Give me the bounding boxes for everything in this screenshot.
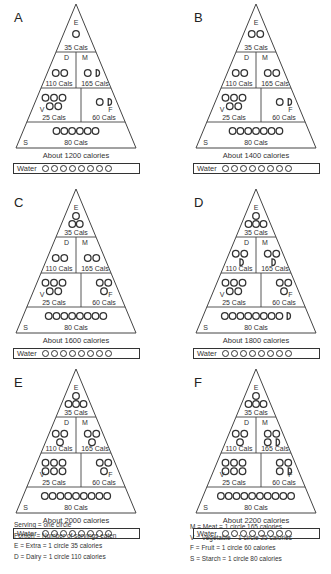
serving-circle-icon xyxy=(46,288,53,295)
serving-circle-icon xyxy=(260,221,267,228)
serving-circle-icon xyxy=(84,430,91,437)
meat-label: M xyxy=(262,419,268,426)
serving-circle-icon xyxy=(96,493,103,500)
water-row: Water xyxy=(13,348,140,359)
serving-circle-icon xyxy=(84,128,91,135)
vegetable-label: V xyxy=(220,471,225,478)
serving-circle-icon xyxy=(245,401,252,408)
serving-circle-icon xyxy=(231,459,238,466)
pyramid-panel-c: CE35 CalsDM110 Cals165 CalsVF25 Cals60 C… xyxy=(0,185,150,370)
vegetable-calories: 25 Cals xyxy=(42,479,66,486)
water-circle-icon xyxy=(285,165,292,172)
dairy-calories: 110 Cals xyxy=(45,80,73,87)
serving-circle-icon xyxy=(61,313,68,320)
extra-label: E xyxy=(254,384,259,391)
serving-circle-icon xyxy=(59,94,66,101)
extra-calories: 35 Cals xyxy=(244,409,268,416)
water-label: Water xyxy=(17,349,37,358)
dairy-label: D xyxy=(64,239,69,246)
serving-circle-icon xyxy=(231,94,238,101)
serving-circle-icon xyxy=(235,103,242,110)
water-circle-icon xyxy=(231,350,238,357)
water-circle-icon xyxy=(285,350,292,357)
pyramid-panel-d: DE35 CalsDM110 Cals165 CalsVF25 Cals60 C… xyxy=(166,185,316,370)
serving-circle-icon xyxy=(42,279,49,286)
meat-label: M xyxy=(82,419,88,426)
water-circle-icon xyxy=(42,350,49,357)
serving-circle-icon xyxy=(276,99,283,106)
serving-circle-icon xyxy=(61,255,68,262)
half-serving-icon xyxy=(288,99,291,106)
pyramid: E35 CalsDM110 Cals165 CalsVF25 Cals60 Ca… xyxy=(166,185,326,345)
fruit-calories: 60 Cals xyxy=(92,479,116,486)
water-circle-icon xyxy=(96,165,103,172)
fruit-label: F xyxy=(108,471,112,478)
meat-calories: 165 Cals xyxy=(81,265,109,272)
serving-circle-icon xyxy=(272,493,279,500)
serving-circle-icon xyxy=(96,99,103,106)
water-circle-icon xyxy=(222,350,229,357)
serving-circle-icon xyxy=(73,393,80,400)
water-circle-icon xyxy=(240,165,247,172)
serving-circle-icon xyxy=(93,430,100,437)
vegetable-calories: 25 Cals xyxy=(42,114,66,121)
water-circle-icon xyxy=(267,350,274,357)
fruit-label: F xyxy=(288,291,292,298)
serving-circle-icon xyxy=(101,288,108,295)
starch-calories: 80 Cals xyxy=(244,504,268,511)
legend-item: V = Vegetable = 1 circle 25 calories xyxy=(190,533,292,544)
water-circle-icon xyxy=(276,165,283,172)
serving-circle-icon xyxy=(93,255,100,262)
water-circle-icon xyxy=(60,350,67,357)
serving-circle-icon xyxy=(51,279,58,286)
extra-calories: 35 Cals xyxy=(244,44,268,51)
starch-calories: 80 Cals xyxy=(244,139,268,146)
dairy-label: D xyxy=(244,54,249,61)
serving-circle-icon xyxy=(261,128,268,135)
serving-circle-icon xyxy=(276,468,283,475)
serving-circle-icon xyxy=(51,468,58,475)
serving-circle-icon xyxy=(231,468,238,475)
pyramid: E35 CalsDM110 Cals165 CalsVF25 Cals60 Ca… xyxy=(166,0,326,160)
water-circle-icon xyxy=(87,165,94,172)
legend-item: E = Extra = 1 circle 35 calories xyxy=(14,541,116,552)
fruit-calories: 60 Cals xyxy=(272,114,296,121)
starch-label: S xyxy=(203,139,208,146)
serving-circle-icon xyxy=(241,493,248,500)
serving-circle-icon xyxy=(264,493,271,500)
pyramid-panel-b: BE35 CalsDM110 Cals165 CalsVF25 Cals60 C… xyxy=(166,0,316,185)
extra-label: E xyxy=(254,204,259,211)
serving-circle-icon xyxy=(59,279,66,286)
serving-circle-icon xyxy=(100,313,107,320)
serving-circle-icon xyxy=(253,213,260,220)
serving-circle-icon xyxy=(84,255,91,262)
half-serving-icon xyxy=(287,313,290,320)
starch-calories: 80 Cals xyxy=(64,504,88,511)
serving-circle-icon xyxy=(52,255,59,262)
serving-circle-icon xyxy=(253,221,260,228)
dairy-calories: 110 Cals xyxy=(45,265,73,272)
pyramid: E35 CalsDM110 Cals165 CalsVF25 Cals60 Ca… xyxy=(0,365,160,525)
serving-circle-icon xyxy=(69,313,76,320)
serving-circle-icon xyxy=(232,430,239,437)
meat-label: M xyxy=(82,54,88,61)
serving-circle-icon xyxy=(273,70,280,77)
fruit-label: F xyxy=(288,471,292,478)
serving-circle-icon xyxy=(65,401,72,408)
legend-item: Portion = Number of servings eaten xyxy=(14,531,116,542)
fruit-calories: 60 Cals xyxy=(92,114,116,121)
serving-circle-icon xyxy=(273,430,280,437)
serving-circle-icon xyxy=(276,459,283,466)
water-circle-icon xyxy=(69,350,76,357)
vegetable-label: V xyxy=(40,471,45,478)
serving-circle-icon xyxy=(233,493,240,500)
serving-circle-icon xyxy=(59,459,66,466)
meat-calories: 165 Cals xyxy=(81,445,109,452)
meat-calories: 165 Cals xyxy=(261,445,289,452)
extra-label: E xyxy=(254,19,259,26)
serving-circle-icon xyxy=(55,103,62,110)
serving-circle-icon xyxy=(61,70,68,77)
water-circle-icon xyxy=(105,350,112,357)
fruit-label: F xyxy=(108,291,112,298)
fruit-calories: 60 Cals xyxy=(92,299,116,306)
